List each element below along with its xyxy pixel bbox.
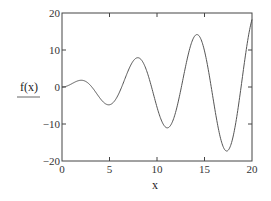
y-tick-label: −20 [43,155,61,167]
x-tick-label: 0 [59,163,65,175]
y-tick-label: 20 [49,7,61,19]
y-tick-label: 0 [55,81,61,93]
x-tick-label: 5 [107,163,113,175]
y-axis-label: f(x) [20,80,38,94]
y-tick-labels: 20100−10−20 [43,7,61,167]
chart: 20100−10−20 05101520 f(x) x [0,0,271,201]
y-tick-label: 10 [49,44,61,56]
x-tick-label: 15 [199,163,211,175]
y-tick-label: −10 [43,118,61,130]
x-tick-label: 10 [152,163,164,175]
x-tick-label: 20 [247,163,259,175]
plot-area [62,19,252,151]
x-tick-labels: 05101520 [59,163,258,175]
plot-frame [62,13,252,161]
f-x-curve [62,19,252,151]
x-axis-label: x [152,178,158,192]
axis-ticks [62,13,252,161]
